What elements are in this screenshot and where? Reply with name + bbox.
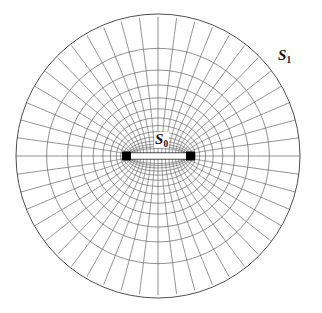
label-s1-symbol: S [278, 47, 286, 63]
label-s0-symbol: S [155, 131, 163, 147]
inner-boundary-s0 [122, 152, 195, 161]
label-s1: S1 [278, 48, 291, 63]
conformal-mesh-svg [0, 0, 322, 313]
figure-root: S0 S1 [0, 0, 322, 313]
slit-bar [130, 153, 187, 159]
slit-endpoint-left [122, 152, 131, 161]
label-s0-subscript: 0 [164, 139, 169, 149]
slit-endpoint-right [186, 152, 195, 161]
label-s1-subscript: 1 [287, 55, 292, 65]
label-s0: S0 [154, 132, 169, 148]
